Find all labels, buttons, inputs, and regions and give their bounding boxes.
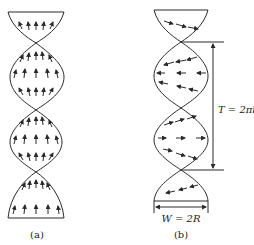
helix-strand-b2 — [154, 10, 208, 201]
width-label: W = 2R — [162, 213, 201, 224]
period-label: T = 2πb — [218, 104, 254, 115]
helix-strand-b1 — [154, 10, 208, 201]
arrows-a — [13, 22, 59, 214]
panel-a — [8, 12, 64, 218]
caption-b: (b) — [174, 229, 188, 240]
caption-a: (a) — [30, 229, 44, 240]
arrows-b — [157, 21, 206, 193]
panel-b — [154, 10, 224, 213]
helix-diagram: T = 2πb W = 2R (a) (b) — [0, 0, 254, 245]
